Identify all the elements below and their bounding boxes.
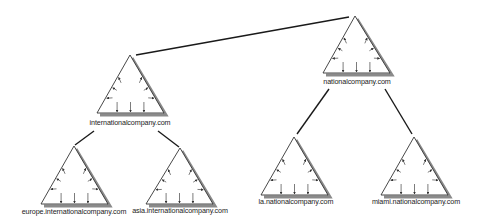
domain-node-miami[interactable]: miami.nationalcompany.com xyxy=(372,137,460,206)
domain-label: nationalcompany.com xyxy=(323,77,391,86)
tree-nodes: nationalcompany.cominternationalcompany.… xyxy=(22,16,460,216)
edge-international-to-asia xyxy=(158,131,179,147)
domain-label: asia.internationalcompany.com xyxy=(132,206,228,215)
domain-label: europe.internationalcompany.com xyxy=(22,207,127,216)
domain-label: miami.nationalcompany.com xyxy=(372,197,460,206)
edge-national-to-international xyxy=(136,17,349,55)
edge-international-to-europe xyxy=(75,131,94,145)
domain-node-asia[interactable]: asia.internationalcompany.com xyxy=(132,148,228,215)
domain-label: internationalcompany.com xyxy=(90,118,171,127)
domain-tree-diagram: nationalcompany.cominternationalcompany.… xyxy=(0,0,482,221)
edge-national-to-la xyxy=(297,89,329,134)
domain-node-la[interactable]: la.nationalcompany.com xyxy=(259,137,334,206)
domain-node-national[interactable]: nationalcompany.com xyxy=(323,16,392,86)
domain-label: la.nationalcompany.com xyxy=(259,197,334,206)
edge-national-to-miami xyxy=(385,89,412,134)
domain-node-international[interactable]: internationalcompany.com xyxy=(90,55,171,127)
domain-node-europe[interactable]: europe.internationalcompany.com xyxy=(22,146,127,216)
